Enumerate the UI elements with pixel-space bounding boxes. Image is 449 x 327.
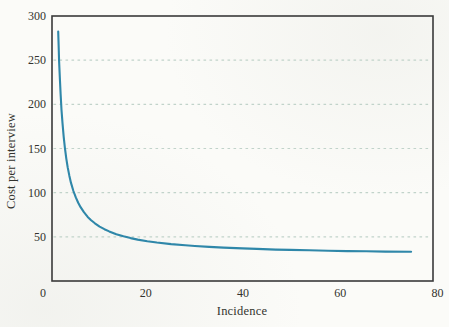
- cost-curve: [58, 32, 411, 252]
- x-tick-label: 0: [40, 286, 46, 300]
- y-tick-label: 150: [0, 142, 46, 156]
- y-tick-label: 300: [0, 9, 46, 23]
- x-tick-label: 40: [237, 286, 249, 300]
- chart-figure: Cost per interview Incidence 30025020015…: [0, 0, 449, 327]
- x-tick-label: 60: [334, 286, 346, 300]
- x-axis-title: Incidence: [217, 304, 267, 319]
- x-tick-label: 20: [140, 286, 152, 300]
- x-tick-label: 80: [432, 286, 444, 300]
- y-tick-label: 200: [0, 97, 46, 111]
- y-tick-label: 100: [0, 186, 46, 200]
- y-tick-label: 50: [0, 230, 46, 244]
- plot-svg: [0, 0, 449, 327]
- y-tick-label: 250: [0, 53, 46, 67]
